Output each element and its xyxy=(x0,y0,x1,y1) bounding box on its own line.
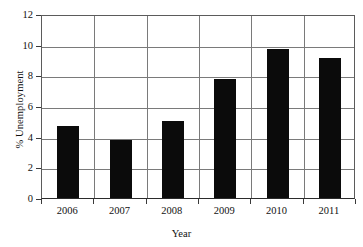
x-axis-title: Year xyxy=(0,228,363,239)
x-axis-tick-label-2010: 2010 xyxy=(266,205,287,217)
x-axis-tick-label-2009: 2009 xyxy=(214,205,235,217)
x-axis-tick-label-2006: 2006 xyxy=(57,205,78,217)
x-axis-tick-label-2011: 2011 xyxy=(319,205,340,217)
x-axis-tick-label-2007: 2007 xyxy=(109,205,130,217)
x-axis-tick-labels: 200620072008200920102011 xyxy=(0,0,363,247)
x-axis-tick-label-2008: 2008 xyxy=(161,205,182,217)
unemployment-bar-chart: % Unemployment 024681012 200620072008200… xyxy=(0,0,363,247)
